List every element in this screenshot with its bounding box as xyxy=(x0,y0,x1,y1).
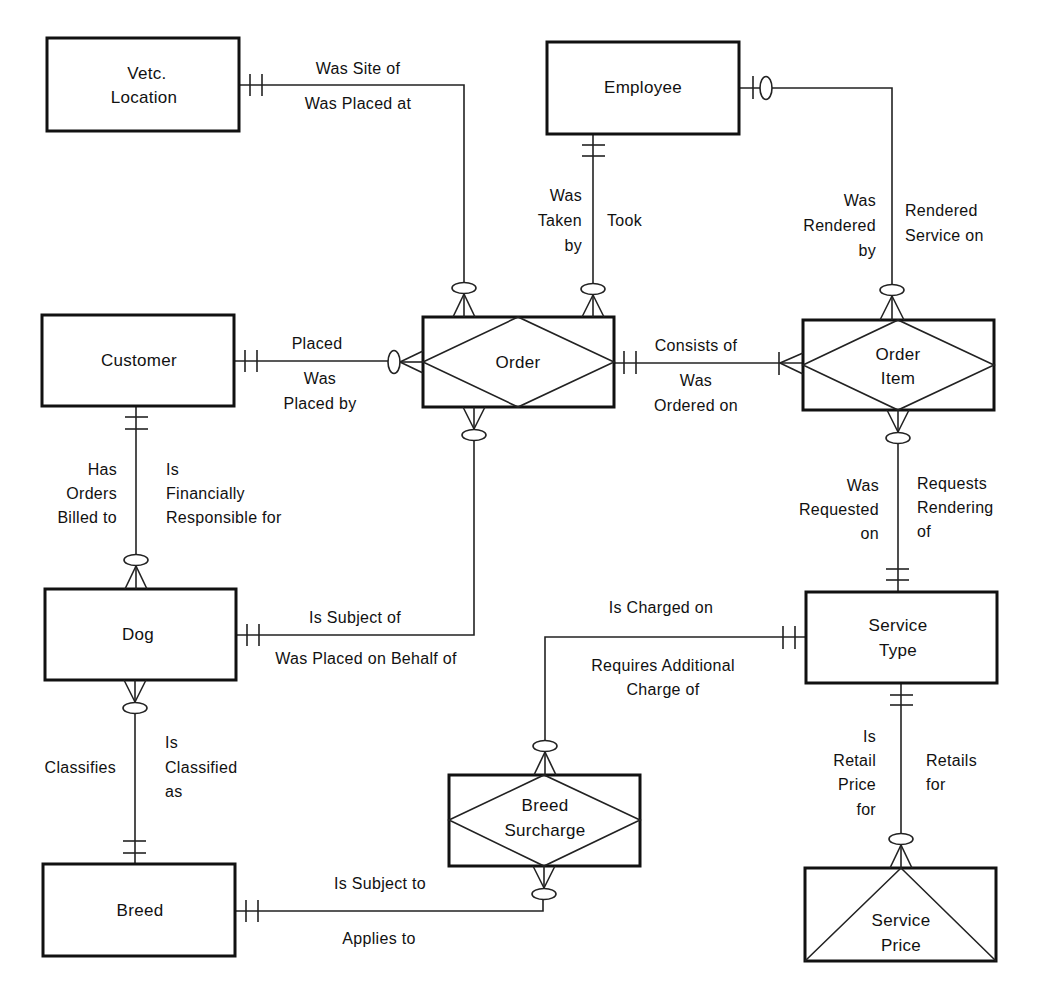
relationship-label: Requires Additional xyxy=(591,657,735,674)
er-diagram: Vetc. Location Employee Customer Order O… xyxy=(0,0,1041,999)
entity-order-item[interactable]: Order Item xyxy=(803,320,994,410)
relationship-label: Rendering xyxy=(917,499,994,516)
zero-or-many-icon xyxy=(889,834,913,869)
relationship-label: Is xyxy=(166,461,179,478)
entity-label: Item xyxy=(881,369,915,388)
zero-or-many-icon xyxy=(581,284,605,318)
relationship-label: Was xyxy=(680,372,712,389)
relationship-label: Orders xyxy=(66,485,117,502)
relationship-label: Was xyxy=(847,477,879,494)
zero-or-many-icon xyxy=(123,680,147,714)
relationship-label: Placed xyxy=(292,335,343,352)
relationship-label: Took xyxy=(607,212,643,229)
relationship-label: Classifies xyxy=(45,759,116,776)
relationship-label: Was Site of xyxy=(316,60,401,77)
relationship-label: by xyxy=(565,237,583,254)
entity-label: Service xyxy=(872,911,931,930)
zero-or-many-icon xyxy=(532,866,556,900)
line-breed-breedsurcharge xyxy=(235,898,543,911)
entity-label: Breed xyxy=(522,796,569,815)
zero-or-many-icon xyxy=(462,407,486,441)
relationship-label: Financially xyxy=(166,485,245,502)
entity-service-type[interactable]: Service Type xyxy=(806,592,997,683)
relationship-label: Has xyxy=(88,461,117,478)
entity-service-price[interactable]: Service Price xyxy=(805,868,996,961)
relationship-label: Charge of xyxy=(627,681,700,698)
entity-label: Vetc. xyxy=(127,64,166,83)
entity-breed-surcharge[interactable]: Breed Surcharge xyxy=(449,775,640,866)
zero-or-many-icon xyxy=(388,351,423,374)
relationship-label: Applies to xyxy=(342,930,415,947)
entity-customer[interactable]: Customer xyxy=(42,315,234,406)
relationship-label: Was Placed on Behalf of xyxy=(275,650,457,667)
relationship-label: Service on xyxy=(905,227,984,244)
entity-label: Employee xyxy=(604,78,682,97)
relationship-label: Was xyxy=(304,370,336,387)
relationship-label: for xyxy=(856,801,876,818)
relationship-label: Placed by xyxy=(284,395,357,412)
relationship-label: Is Subject of xyxy=(309,609,401,626)
relationship-label: Is Charged on xyxy=(609,599,713,616)
zero-or-many-icon xyxy=(124,555,148,590)
zero-or-many-icon xyxy=(886,410,910,444)
relationship-label: Taken xyxy=(538,212,582,229)
relationship-label: Consists of xyxy=(655,337,738,354)
entity-vetc-location[interactable]: Vetc. Location xyxy=(47,38,239,131)
entity-order[interactable]: Order xyxy=(423,317,614,407)
relationship-label: Responsible for xyxy=(166,509,282,526)
relationship-label: Retails xyxy=(926,752,977,769)
relationship-label: Requested xyxy=(799,501,879,518)
entity-label: Customer xyxy=(101,351,177,370)
relationship-label: Ordered on xyxy=(654,397,738,414)
relationship-label: Requests xyxy=(917,475,987,492)
entity-label: Breed xyxy=(117,901,164,920)
relationship-label: Billed to xyxy=(57,509,117,526)
entity-employee[interactable]: Employee xyxy=(547,42,739,134)
entity-label: Price xyxy=(881,936,921,955)
entity-label: Type xyxy=(879,641,917,660)
line-vetc-order xyxy=(239,85,464,282)
entity-label: Order xyxy=(496,353,541,372)
zero-or-many-icon xyxy=(452,283,476,318)
entity-label: Dog xyxy=(122,625,154,644)
entity-breed[interactable]: Breed xyxy=(43,864,235,956)
relationship-label: Rendered xyxy=(905,202,978,219)
relationship-label: by xyxy=(859,242,877,259)
entity-label: Service xyxy=(869,616,928,635)
relationship-label: Price xyxy=(838,776,876,793)
relationship-label: as xyxy=(165,783,183,800)
relationship-label: Is xyxy=(863,728,876,745)
relationship-label: of xyxy=(917,523,931,540)
zero-or-many-icon xyxy=(880,285,904,321)
relationship-label: Retail xyxy=(833,752,876,769)
relationship-label: Was xyxy=(844,192,876,209)
relationship-label: Rendered xyxy=(803,217,876,234)
relationship-label: for xyxy=(926,776,946,793)
relationship-label: Was xyxy=(550,187,582,204)
relationship-label: Classified xyxy=(165,759,237,776)
zero-or-many-icon xyxy=(533,741,557,776)
relationship-label: Was Placed at xyxy=(305,95,412,112)
relationship-label: Is xyxy=(165,734,178,751)
line-dog-order xyxy=(236,441,474,635)
relationship-label: Is Subject to xyxy=(334,875,426,892)
entity-label: Order xyxy=(876,345,921,364)
entity-label: Surcharge xyxy=(504,821,585,840)
entity-label: Location xyxy=(111,88,178,107)
relationship-label: on xyxy=(861,525,879,542)
entity-dog[interactable]: Dog xyxy=(45,589,236,680)
